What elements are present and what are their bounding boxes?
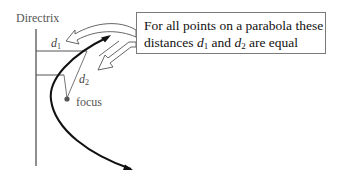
explanation-note-box: For all points on a parabola these dista…: [136, 12, 326, 54]
note-line-1: For all points on a parabola these: [144, 17, 325, 34]
arrowhead-bottom-icon: [123, 165, 133, 171]
d1-label: d1: [51, 37, 61, 51]
d1-subscript: 1: [57, 42, 61, 51]
note-and-word: and: [208, 35, 234, 50]
note-line-2-suffix: are equal: [246, 35, 298, 50]
note-d1-letter: d: [197, 35, 204, 50]
arrowhead-top-icon: [101, 35, 111, 43]
focus-point: [64, 96, 69, 101]
note-line-2: distances d1 and d2 are equal: [144, 34, 325, 55]
d2-subscript: 2: [85, 78, 89, 87]
focus-label: focus: [76, 96, 102, 108]
callout-arrow-d2-icon: [98, 42, 136, 70]
directrix-label: Directrix: [16, 12, 59, 24]
d2-label: d2: [79, 73, 89, 87]
focus-line-lower: [64, 75, 67, 98]
note-line-2-prefix: distances: [144, 35, 197, 50]
